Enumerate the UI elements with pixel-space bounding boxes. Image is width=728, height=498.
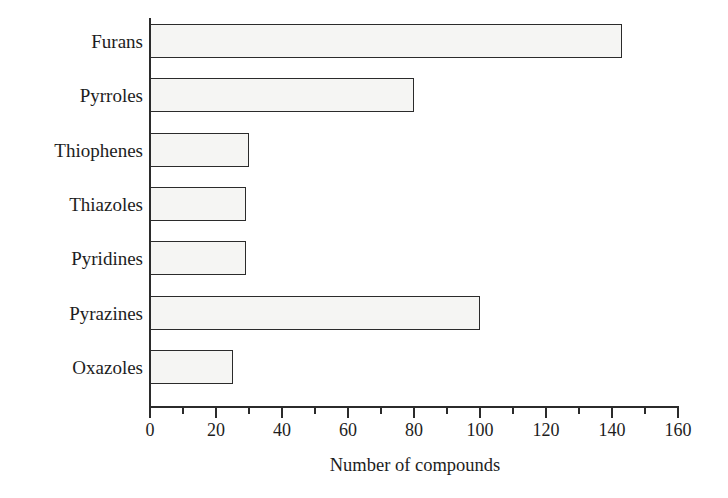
bar-pyrroles	[150, 78, 414, 112]
category-label-oxazoles: Oxazoles	[72, 358, 143, 377]
bar-thiazoles	[150, 187, 246, 221]
category-label-pyrazines: Pyrazines	[69, 304, 143, 323]
x-tick-major-20	[215, 407, 217, 418]
x-tick-minor-70	[380, 407, 382, 414]
x-tick-label-140: 140	[599, 421, 626, 439]
x-tick-label-80: 80	[405, 421, 423, 439]
x-tick-minor-10	[182, 407, 184, 414]
x-tick-label-20: 20	[207, 421, 225, 439]
x-axis-title: Number of compounds	[150, 455, 680, 476]
x-tick-minor-150	[644, 407, 646, 414]
category-label-pyrroles: Pyrroles	[80, 86, 143, 105]
x-tick-minor-50	[314, 407, 316, 414]
bar-pyridines	[150, 241, 246, 275]
x-tick-minor-30	[248, 407, 250, 414]
x-tick-label-100: 100	[467, 421, 494, 439]
bar-oxazoles	[150, 350, 233, 384]
category-axis-labels: FuransPyrrolesThiophenesThiazolesPyridin…	[0, 0, 143, 420]
plot-area	[150, 0, 728, 420]
x-tick-major-160	[677, 407, 679, 418]
x-tick-major-40	[281, 407, 283, 418]
bar-thiophenes	[150, 133, 249, 167]
x-tick-major-80	[413, 407, 415, 418]
x-tick-minor-110	[512, 407, 514, 414]
x-tick-major-0	[149, 407, 151, 418]
bar-furans	[150, 24, 622, 58]
x-tick-major-60	[347, 407, 349, 418]
category-label-thiazoles: Thiazoles	[69, 195, 143, 214]
bar-pyrazines	[150, 296, 480, 330]
category-label-furans: Furans	[91, 32, 143, 51]
y-axis-line	[149, 18, 151, 408]
x-tick-label-60: 60	[339, 421, 357, 439]
x-tick-minor-90	[446, 407, 448, 414]
category-label-pyridines: Pyridines	[71, 249, 143, 268]
x-tick-label-0: 0	[146, 421, 155, 439]
x-tick-label-160: 160	[665, 421, 692, 439]
category-label-thiophenes: Thiophenes	[54, 141, 143, 160]
x-tick-minor-130	[578, 407, 580, 414]
x-tick-label-120: 120	[533, 421, 560, 439]
x-tick-major-100	[479, 407, 481, 418]
x-tick-major-120	[545, 407, 547, 418]
x-tick-major-140	[611, 407, 613, 418]
bar-chart: FuransPyrrolesThiophenesThiazolesPyridin…	[0, 0, 728, 498]
x-tick-label-40: 40	[273, 421, 291, 439]
